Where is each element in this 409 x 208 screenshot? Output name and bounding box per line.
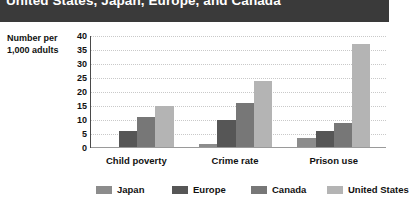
- bar: [334, 123, 352, 148]
- y-axis-tick-labels: 0510152025303540: [62, 36, 87, 150]
- legend-swatch: [172, 186, 188, 194]
- y-tick-label: 20: [77, 87, 87, 97]
- x-axis-baseline: [91, 147, 386, 148]
- y-tick-label: 40: [77, 31, 87, 41]
- y-axis-title: Number per 1,000 adults: [7, 33, 69, 56]
- y-tick-label: 10: [77, 115, 87, 125]
- x-category-label: Crime rate: [212, 155, 259, 166]
- legend-item[interactable]: Canada: [251, 184, 306, 195]
- chart-title: United States, Japan, Europe, and Canada: [6, 0, 281, 8]
- chart-title-band: United States, Japan, Europe, and Canada: [0, 0, 389, 22]
- bar-group: [189, 36, 287, 148]
- bar: [316, 131, 334, 148]
- legend-label: United States: [348, 184, 409, 195]
- plot-area: [90, 36, 386, 148]
- bar: [352, 44, 370, 148]
- y-tick-label: 35: [77, 45, 87, 55]
- legend-label: Europe: [193, 184, 226, 195]
- legend-swatch: [327, 186, 343, 194]
- y-tick-label: 0: [82, 143, 87, 153]
- bar: [137, 117, 155, 148]
- bar-group: [288, 36, 386, 148]
- bar: [155, 106, 173, 148]
- legend-swatch: [96, 186, 112, 194]
- bar-group: [91, 36, 189, 148]
- bar-series-container: [91, 36, 386, 148]
- y-tick-label: 30: [77, 59, 87, 69]
- y-tick-label: 25: [77, 73, 87, 83]
- legend-label: Japan: [117, 184, 144, 195]
- y-axis-title-line-2: 1,000 adults: [7, 45, 69, 57]
- legend-label: Canada: [272, 184, 306, 195]
- x-axis-category-labels: Child povertyCrime ratePrison use: [90, 155, 386, 171]
- bar: [254, 81, 272, 148]
- y-tick-label: 5: [82, 129, 87, 139]
- plot-wrapper: 0510152025303540: [62, 36, 386, 150]
- y-axis-title-line-1: Number per: [7, 33, 69, 45]
- bar: [119, 131, 137, 148]
- legend-item[interactable]: United States: [327, 184, 409, 195]
- y-tick-label: 15: [77, 101, 87, 111]
- x-category-label: Child poverty: [106, 155, 167, 166]
- x-category-label: Prison use: [309, 155, 358, 166]
- legend-item[interactable]: Europe: [172, 184, 226, 195]
- bar: [217, 120, 235, 148]
- bar: [236, 103, 254, 148]
- legend-item[interactable]: Japan: [96, 184, 144, 195]
- legend-swatch: [251, 186, 267, 194]
